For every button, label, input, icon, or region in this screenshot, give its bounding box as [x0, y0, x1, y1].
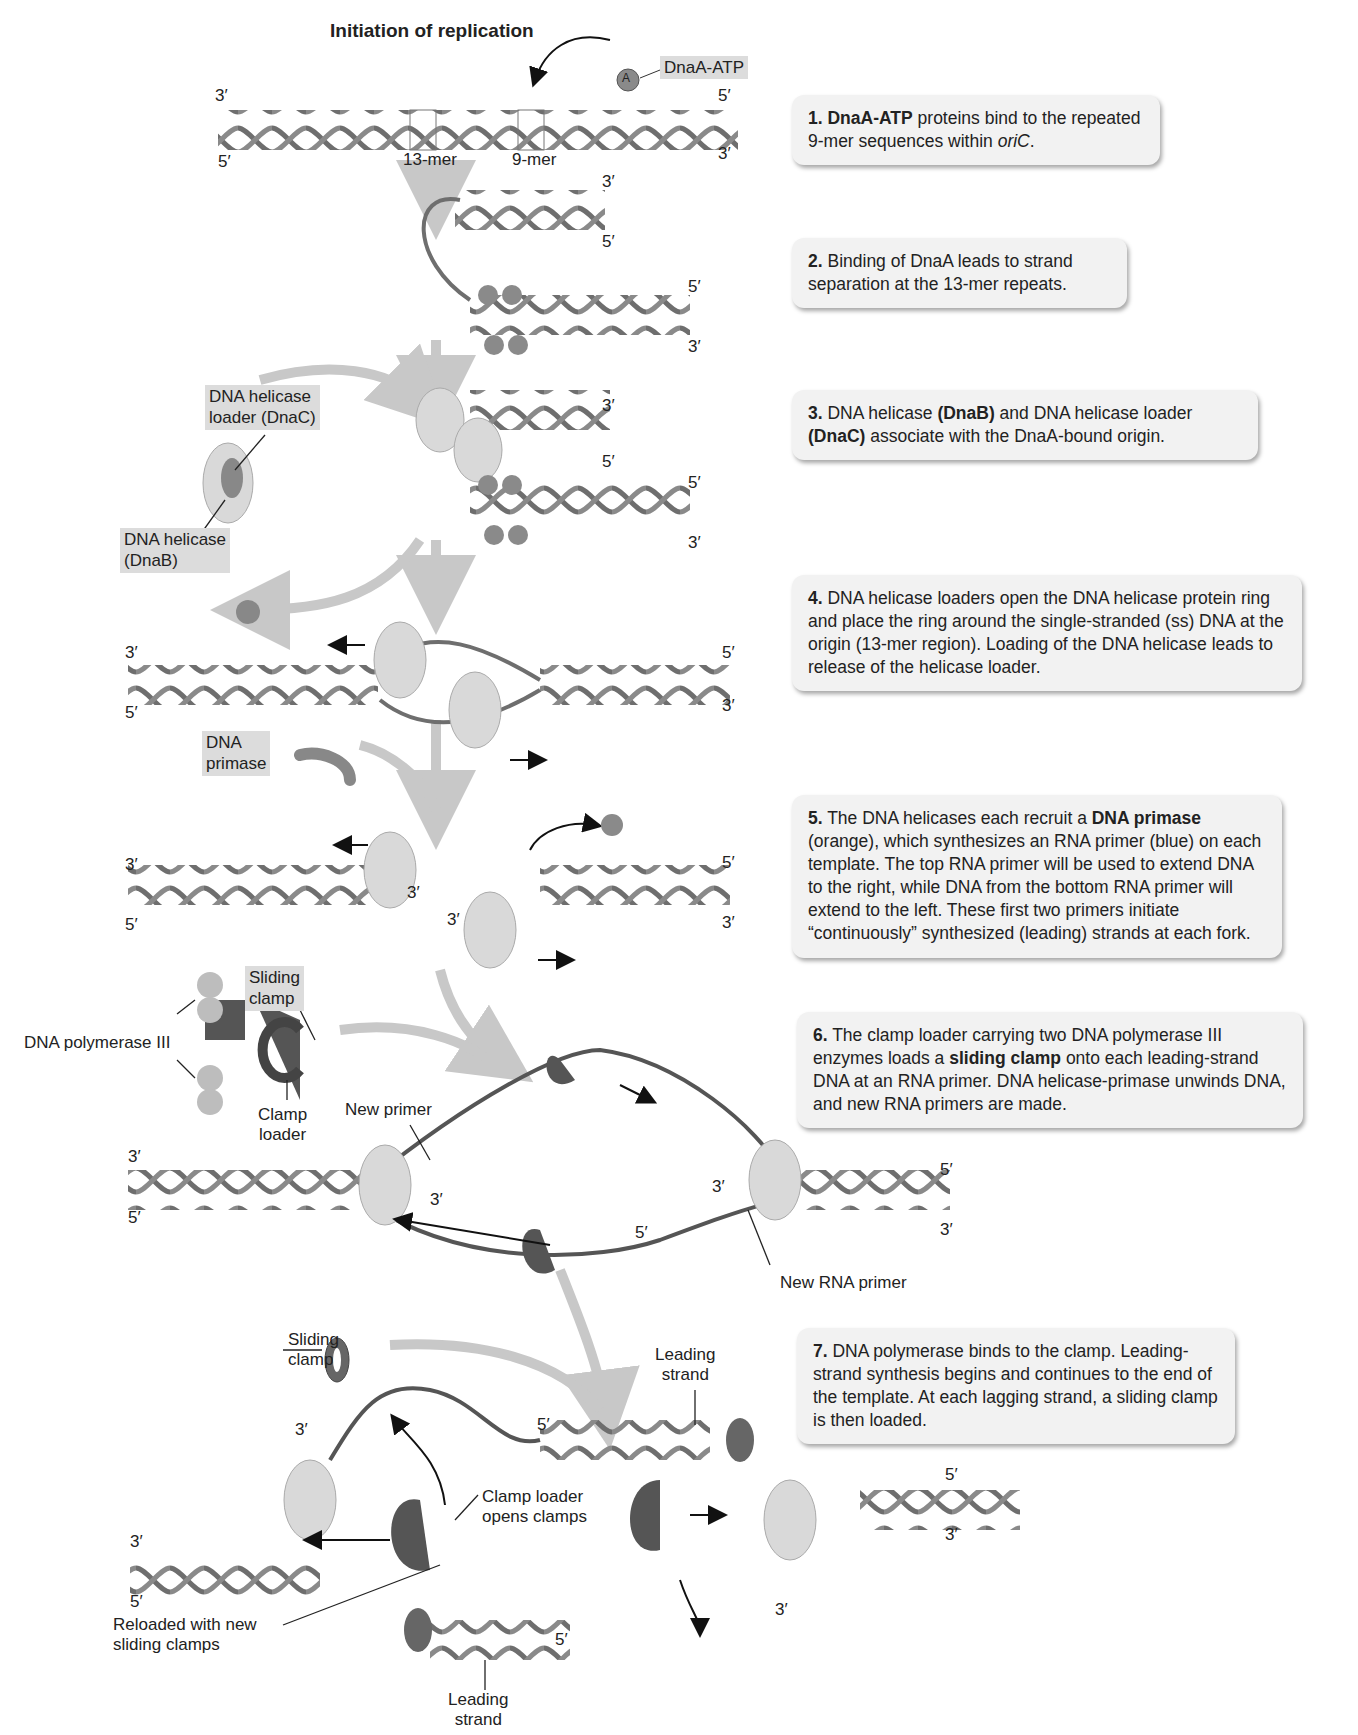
label-5prime: 5′ — [602, 452, 615, 472]
label-5prime: 5′ — [555, 1630, 568, 1650]
label-3prime: 3′ — [722, 696, 735, 716]
label-helicase: DNA helicase (DnaB) — [120, 528, 230, 573]
dna-open-step2 — [424, 190, 690, 355]
label-3prime: 3′ — [430, 1190, 443, 1210]
label-new-rna-primer: New RNA primer — [780, 1273, 907, 1293]
step-3-box: 3. DNA helicase (DnaB) and DNA helicase … — [792, 390, 1258, 460]
label-sliding-clamp: Sliding clamp — [288, 1330, 339, 1371]
step-4-box: 4. DNA helicase loaders open the DNA hel… — [792, 575, 1302, 691]
label-3prime: 3′ — [602, 172, 615, 192]
primase-step5 — [128, 814, 730, 968]
dna-helix-step1 — [218, 37, 738, 150]
label-reloaded-clamps: Reloaded with new sliding clamps — [113, 1615, 257, 1656]
step-2-box: 2. Binding of DnaA leads to strand separ… — [792, 238, 1127, 308]
label-5prime: 5′ — [940, 1160, 953, 1180]
label-5prime: 5′ — [218, 152, 231, 172]
step-1-box: 1. DnaA-ATP proteins bind to the repeate… — [792, 95, 1160, 165]
label-13-mer: 13-mer — [403, 150, 457, 170]
label-3prime: 3′ — [125, 643, 138, 663]
label-3prime: 3′ — [688, 533, 701, 553]
label-5prime: 5′ — [635, 1223, 648, 1243]
label-5prime: 5′ — [537, 1415, 550, 1435]
label-3prime: 3′ — [125, 855, 138, 875]
label-5prime: 5′ — [602, 232, 615, 252]
label-5prime: 5′ — [125, 915, 138, 935]
label-5prime: 5′ — [688, 473, 701, 493]
label-3prime: 3′ — [602, 396, 615, 416]
label-3prime: 3′ — [447, 910, 460, 930]
label-5prime: 5′ — [722, 853, 735, 873]
label-5prime: 5′ — [722, 643, 735, 663]
label-3prime: 3′ — [712, 1177, 725, 1197]
label-dnaa-atp: DnaA-ATP — [660, 56, 748, 79]
label-dna-primase: DNA primase — [202, 731, 270, 776]
label-sliding-clamp: Sliding clamp — [245, 966, 304, 1011]
label-3prime: 3′ — [775, 1600, 788, 1620]
label-5prime: 5′ — [688, 277, 701, 297]
label-5prime: 5′ — [945, 1465, 958, 1485]
label-3prime: 3′ — [295, 1420, 308, 1440]
diagram-stage: Initiation of replication DnaA-ATP A 3′ … — [0, 0, 1358, 1735]
label-5prime: 5′ — [718, 86, 731, 106]
label-leading-strand: Leading strand — [655, 1345, 716, 1386]
label-new-primer: New primer — [345, 1100, 432, 1120]
label-a: A — [622, 71, 630, 85]
label-leading-strand: Leading strand — [448, 1690, 509, 1731]
diagram-title: Initiation of replication — [330, 20, 534, 42]
label-3prime: 3′ — [128, 1147, 141, 1167]
step-5-box: 5. The DNA helicases each recruit a DNA … — [792, 795, 1282, 958]
step-7-box: 7. DNA polymerase binds to the clamp. Le… — [797, 1328, 1235, 1444]
label-9-mer: 9-mer — [512, 150, 556, 170]
label-3prime: 3′ — [945, 1525, 958, 1545]
label-5prime: 5′ — [128, 1208, 141, 1228]
label-dna-polymerase-iii: DNA polymerase III — [24, 1033, 170, 1053]
label-3prime: 3′ — [130, 1532, 143, 1552]
label-3prime: 3′ — [940, 1220, 953, 1240]
label-3prime: 3′ — [718, 144, 731, 164]
label-5prime: 5′ — [130, 1592, 143, 1612]
label-5prime: 5′ — [125, 703, 138, 723]
label-3prime: 3′ — [407, 883, 420, 903]
label-3prime: 3′ — [722, 913, 735, 933]
label-helicase-loader: DNA helicase loader (DnaC) — [205, 385, 320, 430]
label-3prime: 3′ — [688, 337, 701, 357]
label-clamp-loader-opens: Clamp loader opens clamps — [482, 1487, 587, 1528]
label-clamp-loader: Clamp loader — [258, 1105, 307, 1146]
label-3prime: 3′ — [215, 86, 228, 106]
step-6-box: 6. The clamp loader carrying two DNA pol… — [797, 1012, 1303, 1128]
